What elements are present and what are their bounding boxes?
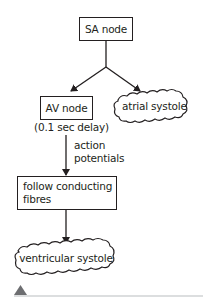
conducting-fibres-line1: follow conducting — [23, 180, 112, 193]
atrial-systole-label: atrial systole — [122, 100, 184, 113]
arrow-sa-to-av — [71, 67, 106, 91]
flow-diagram: SA node AV node (0.1 sec delay) atrial s… — [0, 0, 203, 301]
av-node-box: AV node — [40, 96, 93, 120]
action-potentials-label: action potentials — [74, 139, 124, 165]
conducting-fibres-box: follow conducting fibres — [17, 176, 117, 210]
ventricular-systole-label: ventricular systole — [18, 252, 114, 265]
av-node-label: AV node — [46, 102, 88, 115]
footer-triangle-icon — [14, 285, 27, 295]
sa-node-box: SA node — [79, 17, 133, 41]
action-potentials-line1: action — [74, 139, 124, 152]
av-delay-note: (0.1 sec delay) — [34, 121, 109, 134]
conducting-fibres-line2: fibres — [23, 193, 112, 206]
arrow-sa-to-atrial-systole — [106, 67, 140, 91]
sa-node-label: SA node — [85, 23, 127, 36]
action-potentials-line2: potentials — [74, 152, 124, 165]
